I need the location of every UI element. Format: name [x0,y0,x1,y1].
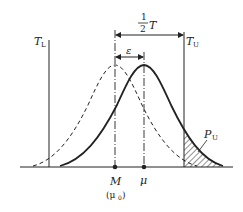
distribution-diagram: 1 2 T T L T U ε M (μ 0 ) μ P U [0,0,243,212]
half-tolerance-var: T [149,19,158,32]
half-tolerance-numerator: 1 [141,12,147,22]
mean-label: μ [140,174,147,187]
center-label: M [109,175,122,188]
upper-limit-sub: U [193,41,199,49]
half-tolerance-denominator: 2 [140,24,146,34]
shift-label: ε [126,45,131,56]
defect-prob-sub: U [212,134,218,142]
center-alt-label: (μ [106,190,116,200]
lower-limit-sub: L [41,41,46,49]
center-alt-close: ) [122,190,126,200]
defect-prob-label: P [203,128,212,141]
defect-leader-line [198,140,207,152]
center-point-M [113,165,118,170]
mean-point-mu [142,165,147,170]
